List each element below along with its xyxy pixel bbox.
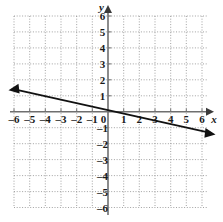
data-series-line xyxy=(9,84,216,138)
x-tick-label-neg2: –2 xyxy=(70,113,83,125)
y-tick-label-neg5: –5 xyxy=(96,186,109,198)
y-tick-label-neg1: –1 xyxy=(96,122,108,134)
x-tick-label-neg4: –4 xyxy=(39,113,52,125)
x-tick-label-neg5: –5 xyxy=(23,113,36,125)
line-right-arrowhead-icon xyxy=(204,128,215,138)
y-tick-label-5: 5 xyxy=(100,26,106,38)
y-axis-label: y xyxy=(97,1,104,13)
y-tick-label-neg4: –4 xyxy=(96,170,109,182)
y-tick-label-1: 1 xyxy=(100,90,106,102)
y-tick-label-neg3: –3 xyxy=(96,154,109,166)
y-tick-label-4: 4 xyxy=(100,42,106,54)
x-tick-label-6: 6 xyxy=(199,113,205,125)
y-tick-label-neg6: –6 xyxy=(96,202,109,214)
x-tick-label-3: 3 xyxy=(152,113,158,125)
y-tick-label-3: 3 xyxy=(100,58,106,70)
x-tick-label-neg1: –1 xyxy=(86,113,98,125)
y-tick-label-neg2: –2 xyxy=(96,138,109,150)
y-tick-label-2: 2 xyxy=(100,74,106,86)
plot-area: –6 –5 –4 –3 –2 –1 0 1 2 3 4 5 6 x xyxy=(0,0,223,222)
coordinate-plane-graph: –6 –5 –4 –3 –2 –1 0 1 2 3 4 5 6 x xyxy=(0,0,223,222)
x-tick-label-4: 4 xyxy=(168,113,174,125)
x-tick-label-neg6: –6 xyxy=(8,113,21,125)
x-tick-label-5: 5 xyxy=(184,113,190,125)
x-tick-label-neg3: –3 xyxy=(55,113,68,125)
x-axis-label: x xyxy=(210,113,217,125)
